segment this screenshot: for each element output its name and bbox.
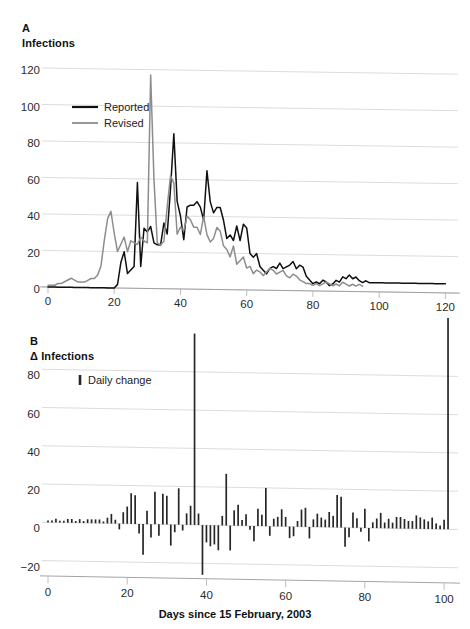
panel-a-xtick-120: 120	[436, 301, 455, 313]
panel-a-legend-label-revised: Revised	[104, 117, 144, 129]
panel-b-ytick-80: 80	[27, 369, 40, 381]
panel-b-xtick-20: 20	[121, 587, 134, 599]
panel-a-xtick-80: 80	[307, 299, 320, 311]
figure-root: A Infections 020406080100120020406080100…	[0, 0, 470, 629]
panel-b: B Δ Infections −20020406080020406080100D…	[0, 318, 470, 629]
panel-b-plot: −20020406080020406080100Daily change	[0, 318, 470, 629]
panel-b-legend-label: Daily change	[88, 374, 152, 386]
panel-b-ytick-40: 40	[27, 446, 40, 458]
panel-b-gridline-y-40	[42, 446, 458, 453]
panel-b-xtick-80: 80	[358, 591, 371, 603]
panel-a-ytick-20: 20	[27, 247, 40, 259]
panel-b-ytick-60: 60	[27, 408, 40, 420]
panel-a-ytick-40: 40	[27, 210, 40, 222]
panel-a-legend-label-reported: Reported	[104, 101, 149, 113]
panel-b-gridline-y-20	[42, 484, 458, 491]
gridline-y-120	[42, 68, 458, 74]
gridline-y-80	[42, 141, 458, 147]
panel-b-xaxis	[40, 576, 460, 583]
panel-b-ytick-20: 20	[27, 484, 40, 496]
gridline-y-60	[42, 177, 458, 183]
panel-a-xtick-100: 100	[370, 300, 389, 312]
panel-a-ytick-0: 0	[34, 283, 40, 295]
panel-b-canvas: −20020406080020406080100Daily change	[0, 318, 470, 629]
panel-b-xaxis-caption: Days since 15 February, 2003	[0, 608, 470, 620]
panel-b-xtick-40: 40	[200, 589, 213, 601]
panel-b-gridline-y-60	[42, 407, 458, 414]
gridline-y-40	[42, 214, 458, 220]
panel-a-series-reported	[48, 134, 445, 288]
panel-b-xtick-60: 60	[279, 590, 292, 602]
panel-a-xtick-20: 20	[108, 296, 121, 308]
panel-a-ytick-60: 60	[27, 174, 40, 186]
panel-a-ytick-80: 80	[27, 137, 40, 149]
panel-b-ytick--20: −20	[20, 561, 40, 573]
panel-b-xtick-0: 0	[45, 586, 51, 598]
panel-a-xtick-60: 60	[240, 298, 253, 310]
panel-a-ytick-100: 100	[21, 101, 40, 113]
panel-a-xtick-0: 0	[45, 295, 51, 307]
panel-b-bars	[48, 318, 448, 575]
panel-b-xtick-100: 100	[434, 593, 453, 605]
panel-a-plot: 020406080100120020406080100120ReportedRe…	[0, 0, 470, 318]
panel-b-gridline-y--20	[42, 561, 458, 568]
panel-b-ytick-0: 0	[34, 522, 40, 534]
panel-a-ytick-120: 120	[21, 64, 40, 76]
panel-a: A Infections 020406080100120020406080100…	[0, 0, 470, 318]
panel-a-canvas: 020406080100120020406080100120ReportedRe…	[0, 0, 470, 318]
panel-a-xtick-40: 40	[174, 297, 187, 309]
